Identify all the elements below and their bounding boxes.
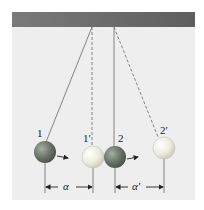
ball-1-prime	[82, 146, 104, 168]
ceiling-bar	[12, 12, 195, 27]
background-panel	[12, 26, 195, 200]
ball-2-prime	[153, 137, 175, 159]
ball-1	[34, 141, 56, 163]
ball-2	[104, 146, 126, 168]
label-ball-1: 1	[37, 127, 43, 139]
label-ball-1-prime: 1′	[83, 132, 91, 144]
pendulum-diagram: 1 1′ 2 2′ α α′	[0, 0, 204, 210]
label-distance-alpha-prime: α′	[132, 180, 141, 192]
label-ball-2-prime: 2′	[160, 124, 168, 136]
label-distance-alpha: α	[63, 180, 69, 192]
label-ball-2: 2	[118, 132, 124, 144]
